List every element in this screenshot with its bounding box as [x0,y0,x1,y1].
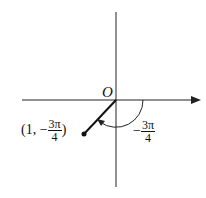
x-axis-arrow-icon [191,96,201,104]
angle-label-fraction: 3π4 [141,119,155,144]
angle-label-denominator: 4 [145,132,151,144]
point-label: (1, −3π4) [21,118,66,143]
origin-label: O [102,84,113,101]
terminal-ray [84,100,116,134]
point-label-suffix: ) [62,122,67,137]
point-label-denominator: 4 [52,131,58,143]
angle-label-sign: − [133,123,141,138]
angle-arrow-icon [97,119,105,126]
point-label-fraction: 3π4 [48,118,62,143]
polar-diagram: O (1, −3π4) −3π4 [0,0,206,198]
angle-label: −3π4 [133,119,155,144]
point-dot [82,132,87,137]
point-label-prefix: (1, − [21,122,48,137]
